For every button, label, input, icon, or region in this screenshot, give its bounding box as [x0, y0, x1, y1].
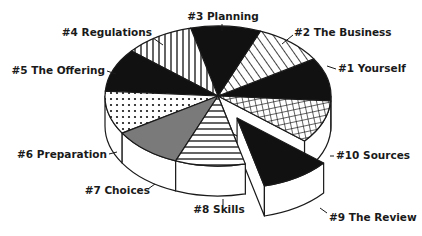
- leader-line: [320, 208, 327, 213]
- slice-label: #1 Yourself: [338, 62, 406, 74]
- slice-label: #6 Preparation: [17, 148, 107, 160]
- slice-label: #2 The Business: [294, 26, 392, 38]
- slice-label: #4 Regulations: [62, 26, 152, 38]
- slice-label: #3 Planning: [187, 10, 259, 22]
- slice-label: #9 The Review: [329, 211, 417, 223]
- leader-line: [327, 66, 336, 69]
- slice-label: #7 Choices: [85, 184, 150, 196]
- pie-chart: #1 Yourself#2 The Business#3 Planning#4 …: [0, 0, 422, 236]
- slice-label: #5 The Offering: [12, 64, 106, 76]
- slice-label: #8 Skills: [193, 203, 244, 215]
- slice-label: #10 Sources: [336, 149, 410, 161]
